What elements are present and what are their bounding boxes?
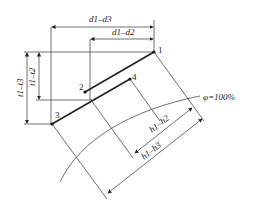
- psychrometric-diagram: d1–d3 d1–d2 t1–t3 t1–t2 1 2 3 4 φ=100% h…: [0, 0, 253, 206]
- point-2: [83, 90, 86, 93]
- saturation-curve: [60, 96, 200, 182]
- label-h1-h2: h1–h2: [147, 113, 171, 135]
- point-label-4: 4: [132, 72, 137, 82]
- point-label-3: 3: [55, 110, 60, 120]
- label-d1-d2: d1–d2: [112, 27, 135, 37]
- enthalpy-line-4: [130, 79, 160, 121]
- enthalpy-line-1: [154, 52, 204, 121]
- label-t1-t2: t1–t2: [27, 67, 37, 86]
- point-label-1: 1: [158, 45, 163, 55]
- enthalpy-line-3: [52, 124, 107, 199]
- process-line-3-4: [52, 79, 130, 124]
- point-label-2: 2: [79, 82, 84, 92]
- label-phi-100: φ=100%: [203, 92, 235, 102]
- label-h1-h3: h1–h3: [139, 140, 163, 162]
- label-d1-d3: d1–d3: [89, 14, 112, 24]
- enthalpy-line-2: [91, 100, 133, 158]
- process-line-2-1: [85, 52, 154, 92]
- label-t1-t3: t1–t3: [15, 78, 25, 97]
